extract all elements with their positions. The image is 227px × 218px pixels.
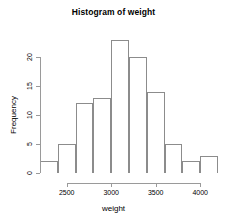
y-axis-tick-label: 15 [26, 82, 33, 90]
histogram-bar [129, 57, 147, 173]
histogram-bar [40, 161, 58, 173]
x-axis-tick-label: 4000 [192, 189, 208, 196]
y-axis-tick [36, 57, 40, 58]
x-axis-tick-label: 3000 [103, 189, 119, 196]
plot-panel [40, 28, 218, 174]
y-axis-tick [36, 86, 40, 87]
x-axis-tick-label: 3500 [148, 189, 164, 196]
histogram-bar [111, 40, 129, 173]
histogram-plot: Histogram of weight Frequency weight 051… [0, 0, 227, 218]
histogram-bar [165, 144, 183, 173]
y-axis-tick-label: 5 [26, 142, 33, 146]
x-axis-tick [156, 183, 157, 187]
y-axis-tick [36, 115, 40, 116]
y-axis-tick-label: 10 [26, 111, 33, 119]
histogram-bar [76, 103, 94, 173]
histogram-bar [147, 92, 165, 173]
x-axis-tick-label: 2500 [59, 189, 75, 196]
histogram-bar [200, 156, 218, 173]
y-axis-tick-label: 20 [26, 53, 33, 61]
histogram-bar [93, 98, 111, 173]
histogram-bar [182, 161, 200, 173]
x-axis-line [67, 183, 201, 184]
y-axis-tick [36, 173, 40, 174]
histogram-bar [58, 144, 76, 173]
y-axis-line [40, 57, 41, 173]
x-axis-tick [67, 183, 68, 187]
y-axis-tick-label: 0 [26, 171, 33, 175]
chart-title: Histogram of weight [0, 7, 227, 17]
x-axis-tick [111, 183, 112, 187]
x-axis-tick [200, 183, 201, 187]
x-axis-label: weight [0, 204, 227, 213]
y-axis-label: Frequency [9, 96, 18, 134]
y-axis-tick [36, 144, 40, 145]
